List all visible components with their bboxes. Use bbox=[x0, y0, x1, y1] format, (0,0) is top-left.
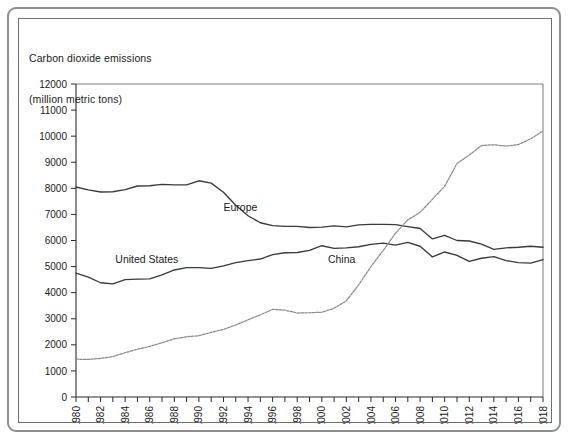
x-tick-label: 1984 bbox=[120, 406, 131, 424]
x-tick-label: 1988 bbox=[169, 406, 180, 424]
x-tick-label: 2004 bbox=[366, 406, 377, 424]
y-tick-label: 8000 bbox=[45, 183, 68, 194]
series-label-europe: Europe bbox=[223, 201, 257, 213]
y-tick-label: 10000 bbox=[39, 131, 67, 142]
x-tick-label: 2010 bbox=[439, 406, 450, 424]
series-line-europe bbox=[76, 181, 543, 250]
y-tick-label: 5000 bbox=[45, 261, 68, 272]
x-tick-label: 1982 bbox=[95, 406, 106, 424]
x-tick-label: 2016 bbox=[513, 406, 524, 424]
x-tick-label: 1992 bbox=[218, 406, 229, 424]
x-tick-label: 1998 bbox=[292, 406, 303, 424]
y-tick-label: 4000 bbox=[45, 287, 68, 298]
y-axis-ticks: 0100020003000400050006000700080009000100… bbox=[39, 79, 76, 403]
x-tick-label: 2006 bbox=[390, 406, 401, 424]
series-label-china: China bbox=[328, 253, 356, 265]
y-tick-label: 9000 bbox=[45, 157, 68, 168]
y-tick-label: 6000 bbox=[45, 235, 68, 246]
figure-outer-frame: Carbon dioxide emissions (million metric… bbox=[7, 7, 561, 432]
series-inline-labels: EuropeUnited StatesChina bbox=[115, 201, 355, 265]
y-tick-label: 0 bbox=[61, 392, 67, 403]
x-tick-label: 1986 bbox=[144, 406, 155, 424]
data-series-group bbox=[76, 131, 543, 359]
x-tick-label: 2018 bbox=[538, 406, 549, 424]
series-line-china bbox=[76, 131, 543, 359]
line-chart-plot: 0100020003000400050006000700080009000100… bbox=[19, 19, 553, 424]
x-axis-ticks: 1980198219841986198819901992199419961998… bbox=[71, 397, 549, 424]
figure-inner-frame: Carbon dioxide emissions (million metric… bbox=[18, 18, 552, 423]
x-tick-label: 1990 bbox=[193, 406, 204, 424]
y-tick-label: 12000 bbox=[39, 79, 67, 90]
plot-area-border bbox=[76, 84, 543, 397]
x-tick-label: 2012 bbox=[464, 406, 475, 424]
y-tick-label: 2000 bbox=[45, 339, 68, 350]
y-tick-label: 3000 bbox=[45, 313, 68, 324]
x-tick-label: 2002 bbox=[341, 406, 352, 424]
y-tick-label: 1000 bbox=[45, 366, 68, 377]
x-tick-label: 1994 bbox=[243, 406, 254, 424]
x-tick-label: 1996 bbox=[267, 406, 278, 424]
y-tick-label: 7000 bbox=[45, 209, 68, 220]
x-tick-label: 2014 bbox=[488, 406, 499, 424]
x-tick-label: 2000 bbox=[316, 406, 327, 424]
y-tick-label: 11000 bbox=[40, 105, 68, 116]
series-label-united-states: United States bbox=[115, 253, 178, 265]
x-tick-label: 2008 bbox=[415, 406, 426, 424]
x-tick-label: 1980 bbox=[71, 406, 82, 424]
